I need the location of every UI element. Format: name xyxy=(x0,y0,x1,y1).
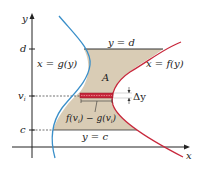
delta-y-label: Δy xyxy=(133,91,146,102)
area-between-curves-diagram: y x d vi c y = d y = c x = g(y) x = f(y)… xyxy=(0,0,202,172)
y-axis-label: y xyxy=(21,13,28,24)
d-label: d xyxy=(20,43,26,54)
c-label: c xyxy=(20,124,26,135)
x-axis-arrow-icon xyxy=(184,145,190,150)
dy-arrow-bottom-icon xyxy=(128,98,131,101)
curve-g-label: x = g(y) xyxy=(37,58,77,69)
x-axis-label: x xyxy=(186,150,192,161)
dy-arrow-top-icon xyxy=(128,90,131,93)
strip-width-label: f(vi) − g(vi) xyxy=(65,113,117,124)
curve-f-label: x = f(y) xyxy=(146,58,184,69)
top-boundary-label: y = d xyxy=(107,37,135,48)
y-axis-arrow-icon xyxy=(30,13,35,19)
vi-label: vi xyxy=(18,90,26,102)
bottom-boundary-label: y = c xyxy=(81,131,108,142)
region-label: A xyxy=(101,72,109,83)
